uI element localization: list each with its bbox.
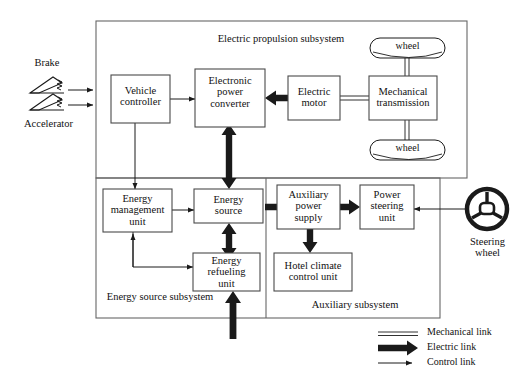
- converter-line3: converter: [195, 98, 265, 109]
- energy-management-unit-label: Energy management unit: [103, 193, 172, 227]
- energy-refueling-unit-label: Energy refueling unit: [193, 255, 260, 289]
- steering-wheel-label-line2: wheel: [455, 247, 520, 258]
- brake-pedal-plate: [30, 77, 62, 93]
- steering-wheel-label-line1: Steering: [455, 236, 520, 247]
- accelerator-pedal-icon: [30, 94, 64, 110]
- climate-line1: Hotel climate: [274, 260, 352, 271]
- vehicle-controller-label: Vehicle controller: [111, 85, 170, 108]
- refueling-line2: refueling: [193, 266, 260, 277]
- aux-supply-line3: supply: [277, 212, 340, 223]
- energy-source-label: Energy source: [194, 194, 263, 217]
- motor-line1: Electric: [288, 86, 340, 97]
- steering-unit-line3: unit: [360, 212, 414, 223]
- accelerator-pedal-plate: [30, 94, 62, 110]
- refueling-line3: unit: [193, 278, 260, 289]
- legend-control-link-label: Control link: [427, 357, 527, 368]
- steering-unit-line1: Power: [360, 189, 414, 200]
- electric-link-external-charging: [225, 291, 241, 339]
- power-steering-unit-label: Power steering unit: [360, 189, 414, 223]
- steering-wheel-label: Steering wheel: [455, 236, 520, 259]
- transmission-line2: transmission: [369, 97, 437, 108]
- auxiliary-power-supply-label: Auxiliary power supply: [277, 189, 340, 223]
- vehicle-controller-line2: controller: [111, 96, 170, 107]
- aux-supply-line2: power: [277, 200, 340, 211]
- steering-wheel-spoke-right: [493, 213, 502, 218]
- steering-wheel-spoke-left: [472, 213, 481, 218]
- vehicle-controller-line1: Vehicle: [111, 85, 170, 96]
- electric-motor-label: Electric motor: [288, 86, 340, 109]
- legend-mechanical-link-label: Mechanical link: [427, 327, 527, 338]
- wheel-top-label: wheel: [370, 41, 445, 52]
- transmission-line1: Mechanical: [369, 86, 437, 97]
- hotel-climate-control-unit-label: Hotel climate control unit: [274, 260, 352, 283]
- wheel-bottom-label: wheel: [370, 143, 445, 154]
- auxiliary-subsystem-label: Auxiliary subsystem: [280, 299, 430, 310]
- refueling-line1: Energy: [193, 255, 260, 266]
- energy-subsystem-label: Energy source subsystem: [100, 291, 220, 302]
- energy-subsystem-label-line1: Energy source subsystem: [107, 291, 214, 302]
- electric-link-source-converter: [222, 124, 237, 189]
- converter-line1: Electronic: [195, 75, 265, 86]
- source-line1: Energy: [194, 194, 263, 205]
- steering-wheel-hub: [480, 203, 494, 214]
- legend-electric-link-label: Electric link: [427, 342, 527, 353]
- climate-line2: control unit: [274, 271, 352, 282]
- motor-line2: motor: [288, 97, 340, 108]
- steering-unit-line2: steering: [360, 200, 414, 211]
- management-line3: unit: [103, 216, 172, 227]
- accelerator-label: Accelerator: [6, 118, 91, 129]
- legend-electric-arrow: [378, 341, 418, 356]
- control-link-management-refueling: [133, 232, 193, 267]
- brake-label: Brake: [13, 57, 81, 68]
- brake-pedal-icon: [30, 77, 64, 93]
- electronic-power-converter-label: Electronic power converter: [195, 75, 265, 109]
- converter-line2: power: [195, 86, 265, 97]
- source-line2: source: [194, 205, 263, 216]
- electric-link-auxiliary-climate: [303, 229, 318, 253]
- legend-symbols: [378, 332, 418, 363]
- diagram-canvas: Electric propulsion subsystem Energy sou…: [0, 0, 527, 382]
- steering-wheel-icon: [467, 189, 507, 229]
- management-line2: management: [103, 204, 172, 215]
- mechanical-transmission-label: Mechanical transmission: [369, 86, 437, 109]
- aux-supply-line1: Auxiliary: [277, 189, 340, 200]
- management-line1: Energy: [103, 193, 172, 204]
